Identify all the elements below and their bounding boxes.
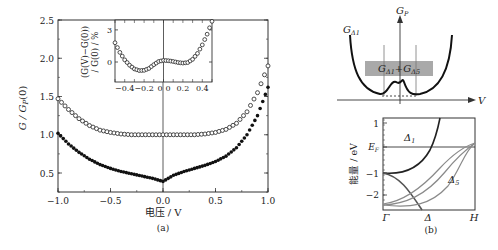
inset-data-point [198, 47, 202, 51]
x-tick-label: −0.5 [100, 196, 122, 206]
inset-x-tick-label: −0.4 [115, 84, 134, 93]
band-y-tick-1: 1 [373, 119, 379, 129]
data-point [70, 111, 74, 115]
panel-a-x-label: 电压 / V [145, 206, 183, 218]
data-point [266, 64, 270, 68]
inset-data-point [113, 41, 117, 45]
x-tick-label: 0.5 [208, 196, 223, 206]
data-point [60, 100, 64, 104]
gp-axis-arrow-icon [397, 15, 403, 23]
data-point [240, 139, 244, 143]
data-point [235, 146, 239, 150]
inset-data-point [210, 19, 214, 23]
band-y-label: 能量 / eV [348, 143, 359, 185]
y-tick-label: 1.0 [40, 130, 55, 140]
data-point [252, 97, 256, 101]
data-point [256, 114, 260, 118]
inset-data-point [118, 50, 122, 54]
panel-a-y-label: G / GP(0) [17, 86, 30, 131]
data-point [248, 128, 252, 132]
inset-data-point [200, 43, 204, 47]
panel-a-chart: 0.51.01.52.02.5 −1.0−0.50.00.51.0 G / GP… [17, 16, 275, 234]
data-point [263, 73, 267, 77]
inset-data-point [205, 32, 209, 36]
data-point [56, 97, 60, 101]
data-point [242, 114, 246, 118]
data-point [249, 103, 253, 107]
inset-data-point [116, 46, 120, 50]
inset-chart: 30−0.4−0.2000.20.4 (G(V)−G(0)) / G(0) / … [80, 19, 214, 93]
panel-b-caption: (b) [425, 225, 438, 235]
g-delta1-label: GΔ1 [343, 24, 360, 37]
data-point [61, 137, 65, 141]
v-axis-arrow-icon [468, 97, 476, 103]
y-tick-label: 1.5 [40, 92, 55, 102]
band-y-tick-minus2: −2 [366, 190, 379, 200]
data-point [261, 100, 265, 104]
x-tick-label: 0.0 [156, 196, 171, 206]
inset-x-tick-label: 0 [157, 84, 162, 93]
data-point [253, 119, 257, 123]
inset-data-point [208, 26, 212, 30]
y-tick-label: 2.0 [40, 54, 55, 64]
y-tick-label: 2.5 [40, 16, 55, 26]
inset-data-point [196, 52, 200, 56]
data-point [266, 86, 270, 90]
data-point [235, 121, 239, 125]
panel-b-band-structure: 1 EF −1 −2 能量 / eV Δ1 Δ5 Γ Δ H (b) [348, 118, 479, 235]
data-point [238, 117, 242, 121]
panel-a-caption: (a) [157, 223, 169, 233]
band-delta1 [383, 118, 440, 173]
x-tick-label: 1.0 [261, 196, 276, 206]
data-point [250, 123, 254, 127]
data-point [245, 110, 249, 114]
inset-x-tick-label: −0.2 [134, 84, 153, 93]
inset-y-tick-label: 0 [107, 58, 112, 67]
data-point [264, 93, 268, 97]
data-point [256, 91, 260, 95]
k-label-gamma: Γ [382, 212, 391, 223]
x-tick-label: −1.0 [47, 196, 69, 206]
inset-x-tick-label: 0.2 [177, 84, 190, 93]
data-point [59, 134, 63, 138]
data-point [67, 108, 71, 112]
band-y-tick-marks [383, 120, 387, 205]
data-point [64, 139, 68, 143]
data-point [74, 114, 78, 118]
data-point [258, 107, 262, 111]
inset-y-label-line2: / G(0) / % [90, 32, 100, 73]
v-axis-label: V [478, 95, 487, 106]
inset-data-point [120, 54, 124, 58]
panel-b-conductance-sketch: GΔ1 GP V GΔ1+GΔ5 [337, 5, 487, 106]
band-y-tick-ef: EF [367, 142, 380, 153]
panel-a-x-ticks: −1.0−0.50.00.51.0 [47, 188, 275, 206]
band-label-delta1: Δ1 [403, 132, 415, 145]
inset-x-tick-label: 0.4 [196, 84, 209, 93]
band-y-tick-minus1: −1 [366, 169, 379, 179]
data-point [245, 133, 249, 137]
figure: 0.51.01.52.02.5 −1.0−0.50.00.51.0 G / GP… [0, 0, 498, 250]
inset-data-point [203, 38, 207, 42]
k-label-h: H [469, 212, 479, 223]
y-tick-label: 0.5 [40, 169, 55, 179]
data-point [259, 82, 263, 86]
data-point [237, 143, 241, 147]
inset-x-tick-label: 0 [165, 84, 170, 93]
gp-axis-label: GP [396, 5, 409, 18]
data-point [56, 131, 60, 135]
inset-y-label-line1: (G(V)−G(0)) [80, 26, 90, 78]
inset-y-tick-label: 3 [107, 26, 112, 35]
data-point [243, 136, 247, 140]
data-point [63, 104, 67, 108]
k-label-delta: Δ [423, 212, 431, 223]
